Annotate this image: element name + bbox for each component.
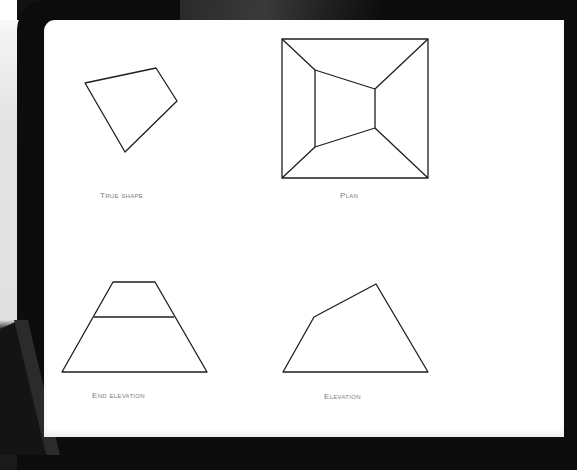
label-true-shape: True Shape <box>100 191 143 200</box>
end-elevation-view <box>62 282 207 372</box>
label-plan: Plan <box>340 191 358 200</box>
plan-edge <box>375 128 428 178</box>
true-shape-outline <box>85 68 177 152</box>
elevation-outline <box>283 284 428 372</box>
plan-view <box>282 39 428 178</box>
plan-edge <box>282 39 315 70</box>
plan-edge <box>282 147 315 178</box>
plan-edge <box>375 39 428 89</box>
true-shape-view <box>85 68 177 152</box>
elevation-view <box>283 284 428 372</box>
label-elevation: Elevation <box>324 392 361 401</box>
plan-outline <box>315 70 375 147</box>
label-end-elevation: End Elevation <box>92 391 145 400</box>
end-elevation-outline <box>62 282 207 372</box>
